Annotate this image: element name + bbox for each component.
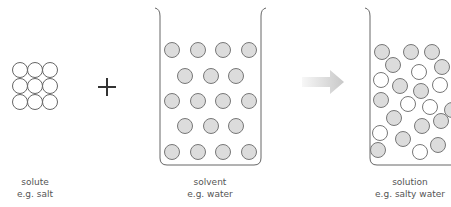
solute-example: e.g. salt bbox=[5, 188, 65, 200]
solution-label: solution e.g. salty water bbox=[360, 176, 451, 200]
solvent-example: e.g. water bbox=[170, 188, 250, 200]
solution-beaker bbox=[365, 8, 451, 165]
arrow-right-icon bbox=[302, 70, 344, 94]
solvent-label: solvent e.g. water bbox=[170, 176, 250, 200]
solution-example: e.g. salty water bbox=[360, 188, 451, 200]
solution-name: solution bbox=[360, 176, 451, 188]
solvent-beaker bbox=[155, 8, 266, 165]
plus-icon bbox=[98, 78, 116, 96]
solute-name: solute bbox=[5, 176, 65, 188]
solute-lattice bbox=[13, 63, 58, 110]
solute-label: solute e.g. salt bbox=[5, 176, 65, 200]
solvent-name: solvent bbox=[170, 176, 250, 188]
